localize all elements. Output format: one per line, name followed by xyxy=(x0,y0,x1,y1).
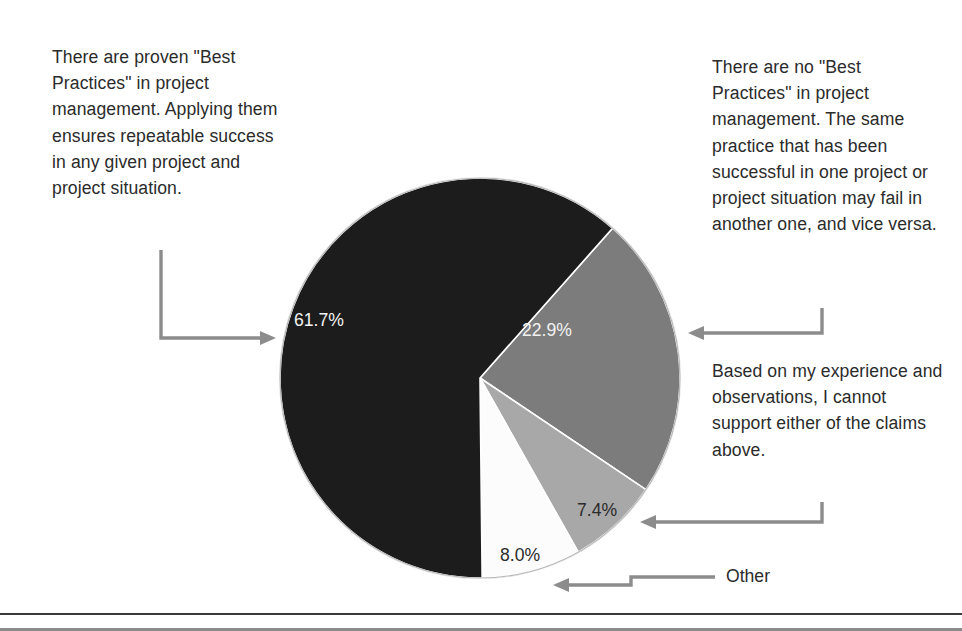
pie-slice-label-22-9: 22.9% xyxy=(522,320,572,341)
leader-line-right-bottom xyxy=(630,496,835,541)
bottom-divider xyxy=(0,613,962,615)
pie-svg xyxy=(272,170,688,586)
leader-line-other xyxy=(545,568,725,600)
pie-chart-page: There are proven "Best Practices" in pro… xyxy=(0,0,962,631)
annotation-proven-best-practices: There are proven "Best Practices" in pro… xyxy=(52,44,284,201)
pie-slice-label-8-0: 8.0% xyxy=(500,545,540,566)
pie-slice-label-61-7: 61.7% xyxy=(294,310,344,331)
leader-line-right-top xyxy=(680,300,835,355)
pie-chart: 22.9% 7.4% 8.0% 61.7% xyxy=(272,170,688,586)
annotation-cannot-support-either: Based on my experience and observations,… xyxy=(712,358,944,463)
annotation-no-best-practices: There are no "Best Practices" in project… xyxy=(712,54,940,237)
other-category-label: Other xyxy=(726,566,770,587)
pie-slices xyxy=(280,178,680,578)
pie-slice-label-7-4: 7.4% xyxy=(577,500,617,521)
leader-line-left xyxy=(150,248,280,353)
